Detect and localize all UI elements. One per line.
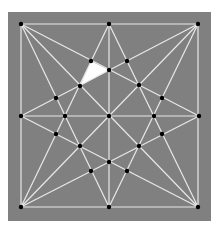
- node-l: [89, 169, 93, 173]
- node-e: [63, 114, 67, 118]
- node-b: [78, 84, 82, 88]
- triangulation-diagram: [0, 0, 218, 226]
- node-q: [107, 160, 111, 164]
- node-tr: [196, 22, 200, 26]
- node-tm: [107, 22, 111, 26]
- node-i: [152, 114, 156, 118]
- node-d: [54, 96, 58, 100]
- node-m: [125, 169, 129, 173]
- node-lm: [19, 114, 23, 118]
- node-a: [89, 59, 93, 63]
- node-c: [107, 114, 111, 118]
- node-k: [137, 144, 141, 148]
- node-j: [78, 144, 82, 148]
- node-h2: [160, 132, 164, 136]
- node-d2: [54, 132, 58, 136]
- node-g: [137, 83, 141, 87]
- node-tl: [19, 22, 23, 26]
- node-br: [196, 205, 200, 209]
- node-p: [107, 68, 111, 72]
- node-bl: [19, 205, 23, 209]
- node-bm: [107, 205, 111, 209]
- node-h: [160, 96, 164, 100]
- node-f: [125, 59, 129, 63]
- node-rm: [197, 114, 201, 118]
